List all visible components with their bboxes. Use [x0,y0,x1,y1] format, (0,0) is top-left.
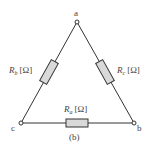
resistor-label-rc: Rc[Ω] [116,65,140,76]
resistor-label-ra: Ra[Ω] [63,104,87,115]
resistor-rb [40,60,59,85]
terminal-c [19,121,23,125]
delta-network-diagram: a b c Rb[Ω] Rc[Ω] Ra[Ω] (b) [0,0,155,156]
terminal-a [75,20,79,24]
figure-caption: (b) [69,132,80,142]
node-label-a: a [74,8,78,18]
resistor-rc [96,60,115,85]
node-label-c: c [11,123,15,133]
resistor-label-rb: Rb[Ω] [8,65,32,76]
terminal-b [132,121,136,125]
resistor-ra [66,119,88,127]
node-label-b: b [137,123,142,133]
